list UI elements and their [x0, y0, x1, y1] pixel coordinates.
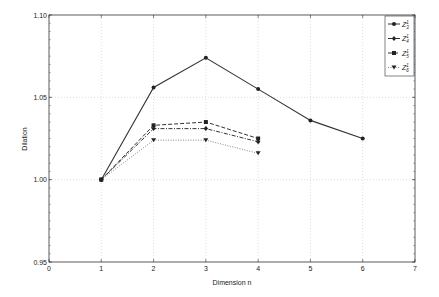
- y-axis-label: Dilation: [21, 127, 28, 150]
- x-tick-label: 5: [308, 265, 312, 272]
- series-line: [101, 58, 362, 180]
- x-axis-label: Dimension n: [213, 279, 252, 286]
- x-tick-label: 3: [204, 265, 208, 272]
- series-line: [101, 122, 258, 180]
- axis-ticks: 012345670.951.001.051.10: [33, 12, 417, 273]
- data-point: [152, 123, 156, 127]
- data-point: [152, 85, 156, 89]
- y-tick-label: 0.95: [33, 259, 47, 266]
- x-tick-label: 1: [99, 265, 103, 272]
- series-line: [101, 140, 258, 180]
- legend: Z13Z14Z15Z16: [385, 16, 414, 76]
- data-point: [204, 126, 208, 131]
- series-1: [99, 56, 364, 182]
- series-4: [99, 138, 261, 182]
- data-point: [204, 120, 208, 124]
- data-point: [361, 137, 365, 141]
- x-tick-label: 0: [47, 265, 51, 272]
- data-point: [392, 51, 396, 55]
- plot-area-frame: [49, 15, 415, 262]
- series-3: [99, 120, 260, 182]
- x-tick-label: 6: [361, 265, 365, 272]
- x-tick-label: 7: [413, 265, 417, 272]
- data-point: [256, 137, 260, 141]
- grid-lines: [49, 15, 415, 262]
- x-tick-label: 2: [152, 265, 156, 272]
- data-series: [99, 56, 365, 182]
- y-tick-label: 1.00: [33, 176, 47, 183]
- data-point: [256, 87, 260, 91]
- data-point: [204, 56, 208, 60]
- series-line: [101, 129, 258, 180]
- dilation-chart: 012345670.951.001.051.10 Dimension n Dil…: [0, 0, 439, 297]
- y-tick-label: 1.10: [33, 12, 47, 19]
- data-point: [308, 118, 312, 122]
- data-point: [392, 22, 396, 26]
- x-tick-label: 4: [256, 265, 260, 272]
- y-tick-label: 1.05: [33, 94, 47, 101]
- series-2: [99, 126, 260, 182]
- data-point: [203, 138, 208, 142]
- legend-box: [385, 16, 414, 76]
